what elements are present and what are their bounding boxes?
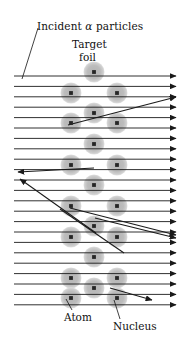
- label-incident-alpha-particles: Incident α particles: [37, 20, 143, 32]
- nucleus-dot: [69, 276, 73, 280]
- nucleus-dot: [92, 70, 96, 74]
- nucleus-dot: [115, 296, 119, 300]
- nucleus-dot: [69, 204, 73, 208]
- label-nucleus: Nucleus: [113, 320, 157, 332]
- nucleus-dot: [92, 111, 96, 115]
- nucleus-dot: [115, 121, 119, 125]
- label-atom: Atom: [64, 311, 92, 323]
- nucleus-dot: [92, 142, 96, 146]
- label-target: Target: [72, 38, 107, 50]
- leader-incident: [22, 28, 38, 79]
- nucleus-dot: [69, 163, 73, 167]
- nucleus-dot: [115, 235, 119, 239]
- nucleus-dot: [69, 91, 73, 95]
- nucleus-dot: [115, 276, 119, 280]
- incident-suffix-text: particles: [93, 20, 144, 32]
- label-foil: foil: [79, 51, 96, 63]
- nucleus-dot: [92, 255, 96, 259]
- nucleus-dot: [69, 121, 73, 125]
- scattered-ray-paths: [18, 97, 176, 300]
- nucleus-dot: [92, 224, 96, 228]
- rutherford-scattering-figure: Incident α particles Target foil Atom Nu…: [0, 0, 190, 345]
- nucleus-dot: [69, 235, 73, 239]
- nucleus-dot: [69, 296, 73, 300]
- alpha-symbol: α: [85, 20, 92, 32]
- nucleus-dot: [115, 91, 119, 95]
- nucleus-dot: [92, 183, 96, 187]
- incident-prefix-text: Incident: [37, 20, 85, 32]
- nucleus-dot: [115, 163, 119, 167]
- nucleus-dot: [92, 286, 96, 290]
- nucleus-dot: [115, 204, 119, 208]
